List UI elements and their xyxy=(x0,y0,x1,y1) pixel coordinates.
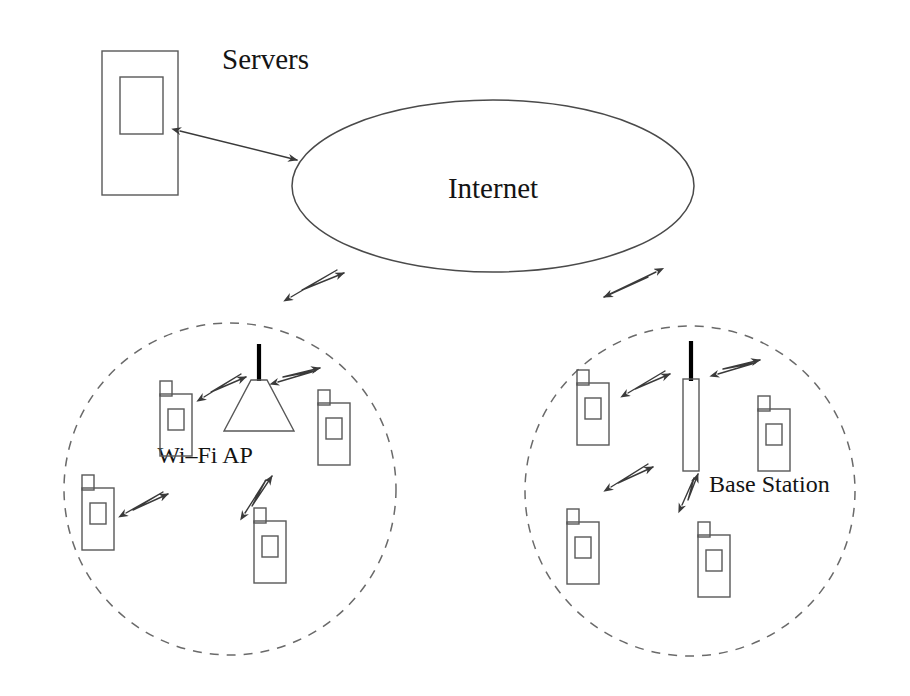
phone-screen-icon xyxy=(585,398,601,419)
phone-body-icon xyxy=(254,521,286,583)
base-station-tower-icon xyxy=(683,379,699,471)
lightning-bolt-path xyxy=(126,492,168,513)
lightning-bolt-path xyxy=(204,374,246,397)
diagram-canvas: Servers Internet Wi–Fi AP xyxy=(0,0,910,696)
wifi-ap-label: Wi–Fi AP xyxy=(157,442,253,468)
wifi-access-point[interactable] xyxy=(224,344,294,431)
lightning-bolt-path xyxy=(611,464,653,487)
servers-label: Servers xyxy=(222,43,309,75)
wifi-cell-group[interactable]: Wi–Fi AP xyxy=(64,323,396,655)
server-outer-body xyxy=(102,51,178,195)
phone-screen-icon xyxy=(168,409,184,430)
lightning-bolt-path xyxy=(291,270,344,297)
lightning-bolt-path xyxy=(682,474,698,505)
wifi-phone-2[interactable] xyxy=(318,390,350,465)
wifi-link-2[interactable] xyxy=(278,368,320,382)
phone-body-icon xyxy=(577,383,609,445)
cell-link-4[interactable] xyxy=(682,474,698,505)
phone-body-icon xyxy=(698,535,730,597)
phone-screen-icon xyxy=(262,536,278,557)
cell-link-2[interactable] xyxy=(718,360,760,374)
wifi-link-1[interactable] xyxy=(204,374,246,397)
lightning-bolt-path xyxy=(278,368,320,382)
cell-phone-1[interactable] xyxy=(577,370,609,445)
phone-body-icon xyxy=(567,522,599,584)
base-station-label: Base Station xyxy=(709,471,830,497)
wifi-phone-4[interactable] xyxy=(254,508,286,583)
phone-screen-icon xyxy=(90,503,106,524)
lightning-bolt-path xyxy=(718,360,760,374)
cell-link-3[interactable] xyxy=(611,464,653,487)
lightning-bolt-path xyxy=(604,272,656,297)
base-station-node[interactable] xyxy=(683,341,699,471)
phone-body-icon xyxy=(318,403,350,465)
wifi-phone-3[interactable] xyxy=(82,475,114,550)
lightning-bolt-path xyxy=(628,371,670,393)
internet-wifi-link[interactable] xyxy=(291,270,344,297)
phone-screen-icon xyxy=(326,418,342,439)
phone-screen-icon xyxy=(766,424,782,445)
internet-label: Internet xyxy=(448,172,538,204)
cell-phone-4[interactable] xyxy=(698,522,730,597)
phone-body-icon xyxy=(758,409,790,471)
access-point-cone-icon xyxy=(224,380,294,431)
server-inner-panel xyxy=(120,77,163,134)
phone-screen-icon xyxy=(706,550,722,571)
servers-node[interactable] xyxy=(102,51,178,195)
double-arrow-line xyxy=(180,131,297,160)
cell-phone-3[interactable] xyxy=(567,509,599,584)
phone-body-icon xyxy=(82,488,114,550)
network-diagram: Servers Internet Wi–Fi AP xyxy=(0,0,910,696)
servers-internet-link[interactable] xyxy=(180,131,297,160)
internet-node[interactable]: Internet xyxy=(292,100,694,272)
wifi-link-3[interactable] xyxy=(126,492,168,513)
internet-cellular-link[interactable] xyxy=(604,272,656,297)
phone-screen-icon xyxy=(575,537,591,558)
cellular-cell-group[interactable]: Base Station xyxy=(525,326,855,656)
cell-link-1[interactable] xyxy=(628,371,670,393)
cell-phone-2[interactable] xyxy=(758,396,790,471)
